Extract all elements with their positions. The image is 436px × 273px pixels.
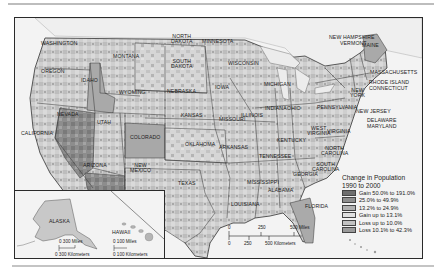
scale-bar: 0 250 500 Miles 0 250 500 Kilometers [228, 225, 323, 247]
legend-label: 13.2% to 24.9% [359, 205, 399, 211]
alaska-scale-miles: 0 300 Miles [59, 239, 83, 244]
label-kentucky: KENTUCKY [277, 138, 306, 143]
top-rule [8, 3, 434, 5]
population-change-map: WASHINGTON OREGON CALIFORNIA NEVADA IDAH… [14, 17, 423, 259]
label-south-carolina-line2: CAROLINA [312, 166, 339, 172]
label-texas: TEXAS [178, 181, 196, 186]
label-new-mexico: NEW MEXICO [130, 163, 151, 173]
label-pennsylvania: PENNSYLVANIA [317, 105, 357, 110]
label-arkansas: ARKANSAS [219, 145, 248, 150]
legend-swatch [342, 205, 356, 211]
legend-swatch [342, 190, 356, 196]
label-arizona: ARIZONA [83, 163, 107, 168]
label-massachusetts: MASSACHUSETTS [370, 70, 417, 75]
legend-item: Loss up to 10.0% [342, 219, 422, 226]
label-iowa: IOWA [215, 85, 229, 90]
label-minnesota: MINNESOTA [202, 39, 233, 44]
label-michigan: MICHIGAN [264, 82, 291, 87]
legend-label: Gain 50.0% to 191.0% [359, 190, 415, 196]
legend-swatch [342, 220, 356, 226]
label-alaska: ALASKA [49, 219, 70, 224]
legend-item: Loss 10.1% to 42.3% [342, 227, 422, 234]
legend-swatch [342, 197, 356, 203]
label-connecticut: CONNECTICUT [369, 86, 408, 91]
label-wisconsin: WISCONSIN [228, 61, 259, 66]
label-north-carolina: NORTH CAROLINA [321, 146, 348, 156]
label-north-dakota: NORTH DAKOTA [171, 34, 193, 44]
label-montana: MONTANA [113, 54, 139, 59]
label-georgia: GEORGIA [293, 172, 318, 177]
alaska-shape [15, 191, 111, 259]
legend-item: 25.0% to 49.9% [342, 197, 422, 204]
label-california: CALIFORNIA [21, 131, 53, 136]
legend-swatch [342, 212, 356, 218]
label-new-york-line2: YORK [350, 92, 365, 98]
label-maryland: MARYLAND [367, 124, 397, 129]
scale-km-250: 250 [244, 241, 252, 246]
label-maine: MAINE [362, 43, 379, 48]
alaska-scale-km: 0 300 Kilometers [55, 252, 89, 257]
label-ohio: OHIO [287, 106, 301, 111]
hawaii-inset: HAWAII 0 100 Miles 0 100 Kilometers [111, 190, 165, 259]
label-colorado: COLORADO [130, 135, 161, 140]
label-kansas: KANSAS [181, 113, 203, 118]
hawaii-shape [111, 191, 164, 259]
label-indiana: INDIANA [265, 106, 287, 111]
legend-item: 13.2% to 24.9% [342, 204, 422, 211]
label-new-mexico-line2: MEXICO [130, 167, 151, 173]
hawaii-scale-km: 0 100 Kilometers [113, 252, 147, 257]
label-oregon: OREGON [41, 69, 65, 74]
label-tennessee: TENNESSEE [259, 154, 291, 159]
label-florida: FLORIDA [305, 204, 328, 209]
label-illinois: ILLINOIS [241, 113, 263, 118]
label-oklahoma: OKLAHOMA [185, 142, 215, 147]
label-idaho: IDAHO [81, 78, 98, 83]
label-south-dakota: SOUTH DAKOTA [171, 59, 193, 69]
legend-label: Loss 10.1% to 42.3% [359, 227, 412, 233]
label-utah: UTAH [97, 120, 111, 125]
label-south-dakota-line2: DAKOTA [171, 63, 193, 69]
legend-item: Gain 50.0% to 191.0% [342, 189, 422, 196]
legend-item: Gain up to 13.1% [342, 212, 422, 219]
scale-km-0: 0 [228, 241, 231, 246]
label-north-carolina-line2: CAROLINA [321, 150, 348, 156]
legend-label: Loss up to 10.0% [359, 220, 402, 226]
legend: Change in Population 1990 to 2000 Gain 5… [342, 174, 422, 234]
label-louisiana: LOUISIANA [231, 202, 260, 207]
label-nebraska: NEBRASKA [167, 89, 196, 94]
hawaii-scale-miles: 0 100 Miles [113, 239, 137, 244]
legend-swatch [342, 227, 356, 233]
scale-km-500: 500 Kilometers [265, 241, 296, 246]
label-mississippi: MISSISSIPPI [247, 180, 279, 185]
alaska-inset: ALASKA 0 300 Miles 0 300 Kilometers [15, 190, 112, 259]
label-nevada: NEVADA [57, 112, 79, 117]
legend-label: 25.0% to 49.9% [359, 197, 399, 203]
label-washington: WASHINGTON [41, 41, 77, 46]
legend-title-line2: 1990 to 2000 [342, 182, 381, 189]
bottom-rule [12, 265, 434, 267]
label-new-jersey: NEW JERSEY [356, 109, 391, 114]
label-hawaii: HAWAII [112, 230, 131, 235]
legend-label: Gain up to 13.1% [359, 212, 402, 218]
legend-title: Change in Population 1990 to 2000 [342, 174, 422, 189]
label-alabama: ALABAMA [268, 188, 293, 193]
label-north-dakota-line2: DAKOTA [171, 38, 193, 44]
label-wyoming: WYOMING [119, 90, 146, 95]
legend-title-line1: Change in Population [342, 174, 405, 181]
label-virginia: VIRGINIA [327, 129, 351, 134]
label-new-york: NEW YORK [350, 88, 365, 98]
label-south-carolina: SOUTH CAROLINA [312, 162, 339, 172]
